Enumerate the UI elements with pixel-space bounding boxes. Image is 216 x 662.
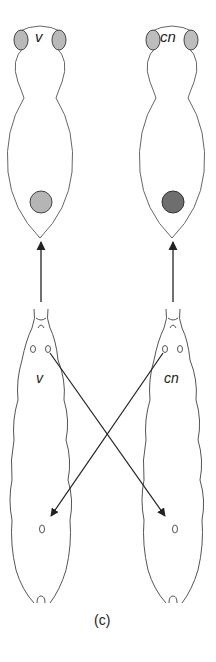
adult-fly-v — [7, 26, 72, 238]
figure-caption: (c) — [94, 612, 110, 628]
mouth-hooks — [36, 318, 46, 328]
mouth-hooks — [168, 318, 178, 328]
implanted-disc — [173, 525, 178, 533]
adult-fly-cn — [139, 26, 204, 238]
implanted-disc — [40, 525, 45, 533]
eye-disc — [31, 346, 36, 353]
larva-outline — [179, 309, 203, 603]
larva-v — [10, 309, 72, 603]
posterior-spiracles — [37, 596, 45, 603]
posterior-spiracles — [169, 596, 177, 603]
larva-label-cn: cn — [164, 370, 179, 386]
eye-right — [184, 30, 198, 50]
eye-left — [14, 30, 28, 50]
abdominal-implant-disc — [162, 191, 184, 213]
abdominal-implant-disc — [30, 191, 52, 213]
transplant-diagram — [0, 0, 216, 662]
eye-right — [52, 30, 66, 50]
eye-disc — [178, 346, 183, 353]
eye-disc — [46, 346, 51, 353]
adult-label-v: v — [35, 28, 43, 45]
eye-left — [146, 30, 160, 50]
larva-label-v: v — [36, 370, 43, 386]
eye-disc — [163, 346, 168, 353]
adult-label-cn: cn — [160, 28, 176, 45]
larva-outline — [10, 309, 35, 603]
larva-cn — [142, 309, 204, 603]
larva-outline — [47, 309, 71, 603]
